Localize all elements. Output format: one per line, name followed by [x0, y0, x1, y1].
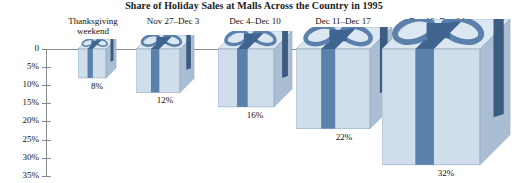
column-header-nov27-dec3: Nov 27–Dec 3: [132, 16, 214, 26]
y-tick-label-5: 5%: [1, 61, 39, 71]
column-header-dec11-dec17: Dec 11–Dec 17: [300, 16, 386, 26]
y-tick-15: [42, 103, 51, 104]
y-tick-30: [42, 158, 51, 159]
gift-box-dec18-dec24: [382, 19, 512, 167]
y-tick-35: [42, 176, 51, 177]
chart-title: Share of Holiday Sales at Malls Across t…: [0, 0, 508, 11]
value-label-12: 12%: [126, 95, 204, 105]
y-tick-label-25: 25%: [1, 134, 39, 144]
value-label-16: 16%: [208, 110, 302, 120]
gift-box-dec11-dec17: [296, 27, 394, 131]
y-tick-label-10: 10%: [1, 79, 39, 89]
value-label-32: 32%: [372, 168, 515, 178]
gift-box-thanksgiving-weekend: [78, 39, 118, 80]
y-tick-0: [42, 49, 51, 50]
y-tick-5: [42, 67, 51, 68]
column-header-dec4-dec10: Dec 4–Dec 10: [214, 16, 296, 26]
y-tick-label-30: 30%: [1, 152, 39, 162]
y-tick-25: [42, 140, 51, 141]
gift-box-nov27-dec3: [136, 35, 196, 94]
y-tick-label-20: 20%: [1, 115, 39, 125]
value-label-8: 8%: [68, 81, 126, 91]
y-tick-20: [42, 121, 51, 122]
y-tick-label-35: 35%: [1, 170, 39, 180]
y-tick-label-15: 15%: [1, 97, 39, 107]
y-tick-10: [42, 85, 51, 86]
gift-box-dec4-dec10: [218, 31, 294, 109]
y-tick-label-0: 0: [1, 43, 39, 53]
column-header-thanksgiving-weekend: Thanksgiving weekend: [55, 16, 131, 36]
